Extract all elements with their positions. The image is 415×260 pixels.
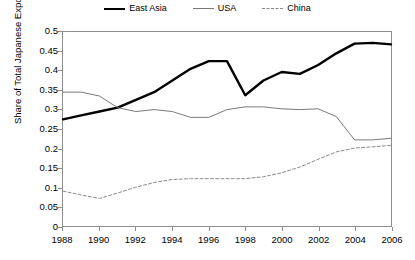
x-axis-tick-label: 2006 <box>370 235 414 245</box>
series-line-east-asia <box>63 43 391 119</box>
chart-container: East Asia USA China Share of Total Japan… <box>0 0 415 260</box>
series-line-china <box>63 145 391 198</box>
x-axis-tick-mark <box>355 227 356 231</box>
legend-swatch-usa-icon <box>193 8 214 9</box>
x-axis-tick-mark <box>99 227 100 231</box>
x-axis-tick-mark <box>282 227 283 231</box>
legend-item-china: China <box>262 4 311 13</box>
x-axis-tick-mark <box>209 227 210 231</box>
y-axis-tick-label: 0.3 <box>18 104 58 114</box>
y-axis-tick-label: 0.15 <box>18 163 58 173</box>
x-axis-tick-mark <box>62 227 63 231</box>
y-axis-tick-label: 0.35 <box>18 85 58 95</box>
y-axis-tick-label: 0.45 <box>18 46 58 56</box>
y-axis-tick-label: 0.25 <box>18 124 58 134</box>
y-axis-tick-label: 0.1 <box>18 183 58 193</box>
chart-legend: East Asia USA China <box>0 4 415 13</box>
x-axis-tick-mark <box>135 227 136 231</box>
plot-svg <box>63 32 391 226</box>
legend-swatch-china-icon <box>262 8 283 9</box>
legend-label-east-asia: East Asia <box>129 4 167 13</box>
x-axis-tick-mark <box>392 227 393 231</box>
legend-item-usa: USA <box>193 4 237 13</box>
legend-item-east-asia: East Asia <box>104 4 167 13</box>
series-line-usa <box>63 92 391 140</box>
plot-area <box>62 31 392 227</box>
x-axis-tick-mark <box>172 227 173 231</box>
y-axis-tick-label: 0.05 <box>18 202 58 212</box>
x-axis-tick-mark <box>319 227 320 231</box>
x-axis-tick-mark <box>245 227 246 231</box>
y-axis-tick-label: 0.2 <box>18 144 58 154</box>
y-axis-tick-label: 0.4 <box>18 65 58 75</box>
legend-label-usa: USA <box>218 4 237 13</box>
y-axis-tick-label: 0 <box>18 222 58 232</box>
y-axis-tick-label: 0.5 <box>18 26 58 36</box>
legend-label-china: China <box>287 4 311 13</box>
legend-swatch-east-asia-icon <box>104 8 125 10</box>
